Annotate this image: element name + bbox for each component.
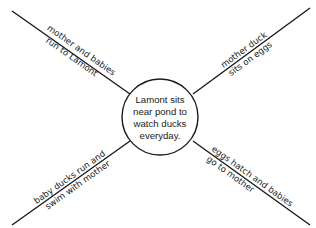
- center-text: Lamont sits near pond to watch ducks eve…: [133, 94, 187, 141]
- center-text-line-2: near pond to: [133, 106, 187, 117]
- spoke-label-bottom-left: baby ducks run and swim with mother: [32, 148, 114, 214]
- center-text-line-1: Lamont sits: [135, 94, 184, 105]
- center-circle: [122, 79, 198, 155]
- spider-map-diagram: Lamont sits near pond to watch ducks eve…: [0, 0, 316, 228]
- center-text-line-4: everyday.: [140, 130, 181, 141]
- spoke-label-bottom-right: eggs hatch and babies go to mother: [203, 144, 295, 218]
- spoke-label-top-right: mother duck sits on eggs: [219, 30, 275, 79]
- spoke-label-bottom-right-line-1: eggs hatch and babies: [210, 144, 296, 209]
- center-text-line-3: watch ducks: [133, 118, 187, 129]
